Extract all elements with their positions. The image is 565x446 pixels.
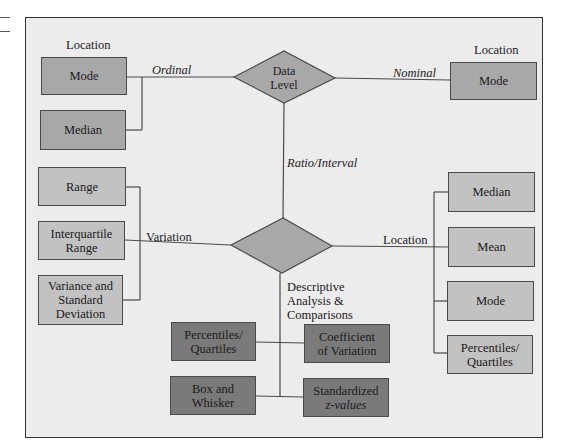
mean-text: Mean (477, 240, 505, 254)
cov-line2: of Variation (317, 344, 376, 358)
nominal-edge-label: Nominal (393, 66, 436, 80)
ordinal-mode-box: Mode (41, 57, 127, 95)
percentiles-quartiles-location-box: Percentiles/ Quartiles (447, 335, 533, 374)
standardized-z-values-box: Standardized z-values (303, 378, 389, 417)
percentiles-loc-line1: Percentiles/ (461, 341, 519, 355)
percentiles-cmp-line1: Percentiles/ (184, 328, 242, 342)
data-level-line2: Level (259, 78, 309, 92)
box-whisker-line2: Whisker (192, 396, 234, 410)
zvalues-line2: z-values (326, 398, 367, 412)
box-and-whisker-box: Box and Whisker (170, 376, 256, 415)
mode-box: Mode (447, 281, 534, 321)
percentiles-loc-line2: Quartiles (467, 355, 513, 369)
ordinal-median-box: Median (40, 110, 126, 150)
mean-box: Mean (448, 227, 535, 267)
mode-text: Mode (476, 294, 505, 308)
descriptive-line2: Analysis & (287, 294, 353, 308)
data-level-line1: Data (259, 64, 309, 78)
ratio-interval-edge-label: Ratio/Interval (287, 156, 357, 170)
iqr-text-line2: Range (66, 241, 98, 255)
cov-line1: Coefficient (319, 330, 375, 344)
ordinal-mode-text: Mode (69, 69, 98, 83)
coefficient-of-variation-box: Coefficient of Variation (304, 324, 390, 363)
location-edge-label: Location (383, 233, 427, 247)
nominal-mode-box: Mode (450, 62, 537, 100)
box-whisker-line1: Box and (192, 382, 234, 396)
variation-edge-label: Variation (146, 230, 192, 244)
descriptive-line1: Descriptive (287, 280, 353, 294)
ordinal-median-text: Median (64, 123, 102, 137)
iqr-text-line1: Interquartile (51, 227, 113, 241)
descriptive-line3: Comparisons (287, 308, 353, 322)
median-text: Median (472, 185, 510, 199)
variance-text-line2: Standard (58, 293, 102, 307)
percentiles-cmp-line2: Quartiles (191, 342, 237, 356)
range-text: Range (66, 180, 98, 194)
zvalues-line1: Standardized (313, 384, 378, 398)
median-box: Median (448, 172, 535, 212)
descriptive-analysis-label: Descriptive Analysis & Comparisons (287, 280, 353, 322)
nominal-location-label: Location (474, 43, 518, 57)
ordinal-location-label: Location (66, 38, 110, 52)
nominal-mode-text: Mode (479, 74, 508, 88)
variance-text-line1: Variance and (48, 279, 113, 293)
percentiles-quartiles-comparison-box: Percentiles/ Quartiles (171, 322, 256, 361)
variance-std-box: Variance and Standard Deviation (38, 275, 123, 325)
interquartile-range-box: Interquartile Range (38, 221, 125, 260)
range-box: Range (38, 167, 126, 206)
data-level-label: Data Level (259, 64, 309, 92)
variance-text-line3: Deviation (56, 307, 105, 321)
analysis-diamond (231, 218, 332, 273)
ordinal-edge-label: Ordinal (152, 63, 191, 77)
